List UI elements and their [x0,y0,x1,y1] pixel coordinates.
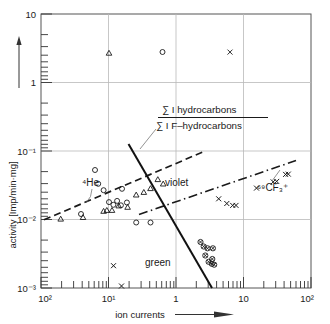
ratio-denominator: ∑ I F–hydrocarbons [156,120,242,131]
x-axis-title-text: ion currents [115,309,165,320]
he-label-text: ⁴He [82,177,100,188]
y-tick-labels: 10 1 10⁻¹ 10⁻² 10⁻³ [17,9,36,294]
x-tick-label: 1 [173,293,178,304]
chart-figure: 10 1 10⁻¹ 10⁻² 10⁻³ 10² 10¹ 1 10 10² act… [0,0,330,324]
y-tick-label: 10⁻³ [17,283,36,294]
y-axis-arrow [16,36,21,88]
violet-label-annotation: violet [165,177,189,188]
violet-label-text: violet [165,177,189,188]
y-tick-label: 10⁻² [17,214,36,225]
y-tick-label: 1 [31,77,36,88]
ratio-numerator: ∑ I hydrocarbons [162,104,237,115]
chart-svg: 10 1 10⁻¹ 10⁻² 10⁻³ 10² 10¹ 1 10 10² act… [0,0,330,324]
x-tick-label: 10 [238,293,249,304]
cf3-label-text: ⁶⁹CF₃⁺ [257,182,288,193]
x-axis-arrow [175,311,234,317]
x-axis-title: ion currents [115,309,234,320]
x-tick-label: 10¹ [102,293,116,304]
green-label-text: green [145,257,171,268]
green-label-annotation: green [145,257,171,268]
x-tick-labels: 10² 10¹ 1 10 10² [38,293,314,304]
y-tick-label: 10⁻¹ [17,146,36,157]
x-tick-label: 10² [38,293,52,304]
y-axis-title-text: activity [Imp/min·mg] [7,161,18,248]
y-tick-label: 10 [25,9,36,20]
x-tick-label: 10² [300,293,314,304]
